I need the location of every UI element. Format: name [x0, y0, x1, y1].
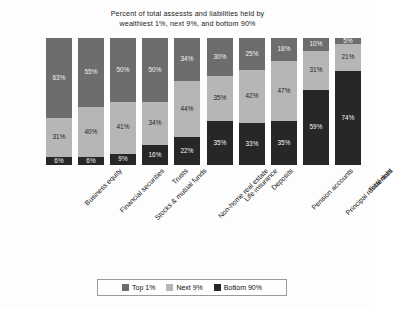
bar-segment-value-label: 50% [149, 67, 162, 73]
plot-area: 63%31%6%55%40%6%50%41%9%50%34%16%34%44%2… [46, 38, 361, 165]
bar-segment-value-label: 41% [117, 124, 130, 130]
bar-column: 30%35%35% [207, 38, 233, 165]
bar-segment-value-label: 9% [118, 156, 127, 162]
chart-legend: Top 1%Next 9%Bottom 90% [97, 279, 287, 296]
bar-segment: 25% [239, 38, 265, 70]
bar-segment: 42% [239, 70, 265, 123]
bar-segment-value-label: 59% [310, 124, 323, 130]
bar-segment-value-label: 10% [310, 41, 323, 47]
bar-column: 5%21%74% [335, 38, 361, 165]
bar-segment: 44% [174, 81, 200, 137]
bar-segment-value-label: 74% [342, 115, 355, 121]
bar-segment: 33% [239, 123, 265, 165]
bar-column: 50%41%9% [110, 38, 136, 165]
bar-segment: 31% [303, 51, 329, 90]
bar-segment: 35% [207, 76, 233, 120]
bar-segment-value-label: 55% [85, 69, 98, 75]
bar-segment-value-label: 21% [342, 54, 355, 60]
bar-segment: 18% [271, 38, 297, 61]
bar-segment-value-label: 40% [85, 129, 98, 135]
bar-segment-value-label: 34% [149, 120, 162, 126]
bar-segment: 34% [174, 38, 200, 81]
bar-column: 63%31%6% [46, 38, 72, 165]
bar-segment-value-label: 31% [53, 134, 66, 140]
bar-segment-value-label: 63% [53, 75, 66, 81]
bar-segment-value-label: 44% [181, 106, 194, 112]
bar-segment: 34% [142, 102, 168, 145]
bar-segment-value-label: 47% [278, 88, 291, 94]
bar-segment: 63% [46, 38, 72, 118]
bar-segment: 50% [142, 38, 168, 102]
chart-title-line-1: Percent of total assessts and liabilitie… [0, 9, 375, 19]
bar-segment-value-label: 33% [246, 141, 259, 147]
bar-segment: 50% [110, 38, 136, 102]
x-axis-label: Pension accounts [310, 167, 354, 211]
legend-item: Next 9% [166, 284, 202, 291]
bar-segment-value-label: 35% [214, 95, 227, 101]
bar-segment: 22% [174, 137, 200, 165]
bar-segment-value-label: 50% [117, 67, 130, 73]
bar-segment: 10% [303, 38, 329, 51]
bar-segment-value-label: 31% [310, 67, 323, 73]
bar-segment: 74% [335, 71, 361, 165]
x-axis-label: Financial securities [118, 167, 165, 214]
bar-segment-value-label: 25% [246, 51, 259, 57]
x-axis-category-labels: Business equityFinancial securitiesStock… [46, 167, 361, 245]
bar-segment-value-label: 6% [86, 158, 95, 164]
legend-color-swatch [214, 284, 221, 291]
bar-segment-value-label: 34% [181, 56, 194, 62]
bar-segment-value-label: 42% [246, 93, 259, 99]
bar-segment: 21% [335, 44, 361, 71]
bar-segment-value-label: 6% [54, 158, 63, 164]
x-axis-label: Total debt [367, 167, 393, 193]
bar-segment-value-label: 18% [278, 46, 291, 52]
bar-column: 10%31%59% [303, 38, 329, 165]
bar-column: 34%44%22% [174, 38, 200, 165]
legend-item: Top 1% [122, 284, 155, 291]
bar-segment: 6% [78, 157, 104, 165]
chart-title: Percent of total assessts and liabilitie… [0, 9, 375, 29]
bar-column: 55%40%6% [78, 38, 104, 165]
bar-segment-value-label: 30% [214, 54, 227, 60]
legend-label: Bottom 90% [224, 284, 262, 291]
legend-color-swatch [166, 284, 173, 291]
bar-segment: 55% [78, 38, 104, 107]
bar-segment-value-label: 16% [149, 152, 162, 158]
bar-segment-value-label: 35% [214, 140, 227, 146]
bar-segment-value-label: 22% [181, 148, 194, 154]
bar-segment: 9% [110, 154, 136, 165]
legend-label: Next 9% [176, 284, 202, 291]
bar-segment: 35% [271, 121, 297, 165]
bar-segment-value-label: 35% [278, 140, 291, 146]
bar-segment: 40% [78, 107, 104, 157]
bar-segment: 16% [142, 145, 168, 165]
x-axis-label: Non-home real estate [217, 167, 270, 220]
bar-segment: 41% [110, 102, 136, 154]
legend-color-swatch [122, 284, 129, 291]
bar-column: 18%47%35% [271, 38, 297, 165]
chart-title-line-2: wealthiest 1%, next 9%, and bottom 90% [0, 19, 375, 29]
bar-segment: 59% [303, 90, 329, 165]
x-axis-label: Business equity [83, 167, 123, 207]
bar-segment: 31% [46, 118, 72, 157]
bar-column: 25%42%33% [239, 38, 265, 165]
legend-label: Top 1% [132, 284, 155, 291]
legend-item: Bottom 90% [214, 284, 262, 291]
bar-segment: 47% [271, 61, 297, 121]
bar-segment: 35% [207, 121, 233, 165]
bar-segment: 6% [46, 157, 72, 165]
bar-column: 50%34%16% [142, 38, 168, 165]
bar-segment: 30% [207, 38, 233, 76]
